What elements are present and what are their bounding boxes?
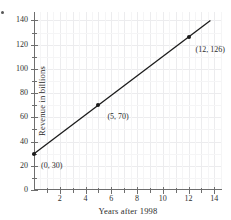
y-tick-label: 100 xyxy=(16,65,28,73)
y-tick-label: 80 xyxy=(20,89,28,97)
x-tick-label: 2 xyxy=(58,195,62,203)
data-point xyxy=(187,35,191,39)
x-tick-label: 14 xyxy=(210,195,218,203)
y-tick-label: 40 xyxy=(20,138,28,146)
x-tick-label: 4 xyxy=(84,195,88,203)
y-tick-label: 0 xyxy=(24,186,28,194)
figure-canvas: 020406080100120140 2468101214 (0, 30)(5,… xyxy=(0,0,231,220)
y-tick-label: 60 xyxy=(20,113,28,121)
data-point-label: (0, 30) xyxy=(41,162,62,170)
plot-area: 020406080100120140 2468101214 (0, 30)(5,… xyxy=(34,12,222,190)
x-axis-title: Years after 1998 xyxy=(34,206,222,216)
data-point-label: (5, 70) xyxy=(107,113,128,121)
problem-bullet-marker xyxy=(1,11,4,14)
data-point xyxy=(32,152,36,156)
data-point xyxy=(96,103,100,107)
x-tick-label: 6 xyxy=(109,195,113,203)
y-axis-title: Revenue in billions xyxy=(37,41,47,161)
y-tick-label: 120 xyxy=(16,41,28,49)
x-tick-label: 12 xyxy=(185,195,193,203)
data-point-label: (12, 126) xyxy=(196,46,225,54)
data-series-layer: (0, 30)(5, 70)(12, 126) xyxy=(34,12,222,190)
y-tick xyxy=(31,190,38,191)
x-tick-label: 10 xyxy=(159,195,167,203)
y-tick-label: 140 xyxy=(16,16,28,24)
x-tick-label: 8 xyxy=(135,195,139,203)
y-tick-label: 20 xyxy=(20,162,28,170)
